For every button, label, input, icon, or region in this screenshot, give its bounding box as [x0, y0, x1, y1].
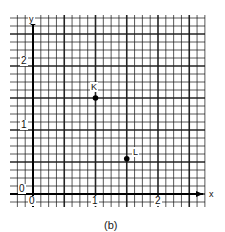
x-tick-1: 1 [91, 196, 99, 206]
y-axis-label: y [28, 14, 35, 24]
y-tick-1: 1 [20, 120, 28, 130]
y-tick-2: 2 [20, 56, 28, 66]
y-tick-0: 0 [18, 184, 26, 194]
grid-lines [10, 15, 205, 207]
point-l [124, 156, 130, 162]
point-l-label: L [132, 147, 139, 157]
point-k [93, 95, 99, 101]
figure-caption: (b) [104, 219, 117, 231]
x-tick-0: 0 [28, 196, 36, 206]
point-k-label: K [90, 82, 98, 92]
x-tick-2: 2 [154, 196, 162, 206]
x-axis-label: x [208, 189, 215, 199]
